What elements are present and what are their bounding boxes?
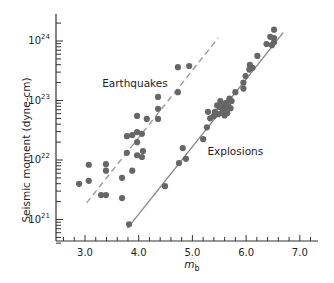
earthquakes-point [175,89,181,95]
earthquakes-point [76,181,82,187]
earthquakes-point [119,195,125,201]
explosions-point [263,41,269,47]
fit-lines [87,33,284,229]
earthquakes-point [140,148,146,154]
explosions-point [183,156,189,162]
explosions-point [242,73,248,79]
earthquakes-point [139,131,145,137]
explosions-point [126,221,132,227]
x-tick-label: 6.0 [238,247,254,258]
x-axis-title: mb [184,258,199,273]
scatter-chart: 3.04.05.06.07.01021102210231024 Earthqua… [0,0,334,283]
explosions-point [162,183,168,189]
earthquakes-point [103,161,109,167]
explosions-point [205,109,211,115]
explosions-label: Explosions [207,145,263,157]
x-axis-title-sub: b [195,264,200,273]
earthquakes-label: Earthquakes [102,77,168,89]
y-tick-label: 1024 [28,33,50,46]
explosions-point [269,42,275,48]
y-axis-title: Seismic moment (dyne-cm) [20,77,32,222]
explosions-point [176,160,182,166]
earthquakes-point [86,178,92,184]
earthquakes-point [155,94,161,100]
explosions-point [271,27,277,33]
explosions-point [227,105,233,111]
explosions-fit-line [127,33,283,229]
explosions-point [240,80,246,86]
axes: 3.04.05.06.07.01021102210231024 [28,14,318,258]
earthquakes-point [129,168,135,174]
earthquakes-point [124,133,130,139]
earthquakes-point [86,162,92,168]
x-tick-label: 7.0 [292,247,308,258]
x-tick-label: 5.0 [184,247,200,258]
explosions-point [200,136,206,142]
x-axis-title-main: m [184,258,194,270]
explosions-point [254,53,260,59]
data-points [76,27,277,228]
earthquakes-point [119,175,125,181]
earthquakes-point [175,64,181,70]
earthquakes-fit-line [87,38,219,203]
explosions-point [247,62,253,68]
earthquakes-point [103,192,109,198]
earthquakes-point [144,116,150,122]
earthquakes-point [155,116,161,122]
explosions-point [204,124,210,130]
earthquakes-point [103,168,109,174]
explosions-point [240,86,246,92]
earthquakes-point [186,63,192,69]
explosions-point [232,89,238,95]
earthquakes-point [134,113,140,119]
explosions-point [229,98,235,104]
explosions-point [180,145,186,151]
earthquakes-point [139,154,145,160]
earthquakes-point [134,139,140,145]
earthquakes-point [124,150,130,156]
x-tick-label: 3.0 [77,247,93,258]
earthquakes-point [155,106,161,112]
x-tick-label: 4.0 [131,247,147,258]
